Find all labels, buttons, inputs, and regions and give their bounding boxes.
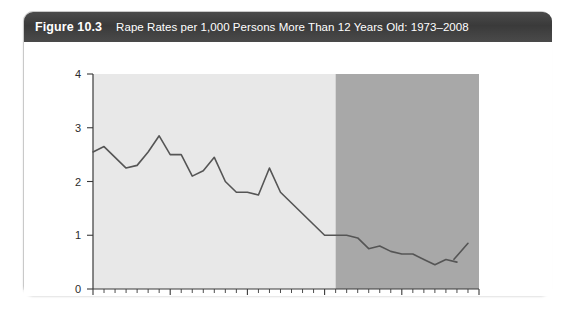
rape-rate-line-chart: 4 3 2 1 0 1973 1980 1987 1994 2001 2008: [24, 42, 552, 296]
y-tick-label-3: 3: [75, 122, 81, 134]
y-tick-label-2: 2: [75, 176, 81, 188]
y-axis-ticks: [87, 74, 93, 289]
figure-container: Figure 10.3 Rape Rates per 1,000 Persons…: [23, 11, 551, 296]
plot-background-right-band: [336, 74, 479, 289]
x-axis-ticks: [93, 289, 479, 295]
y-tick-label-1: 1: [75, 229, 81, 241]
y-tick-label-0: 0: [75, 283, 81, 295]
figure-header-bar: Figure 10.3 Rape Rates per 1,000 Persons…: [24, 12, 552, 42]
figure-title-label: Rape Rates per 1,000 Persons More Than 1…: [102, 21, 469, 33]
y-tick-label-4: 4: [75, 68, 81, 80]
figure-number-label: Figure 10.3: [24, 20, 102, 34]
plot-background-left-band: [93, 74, 336, 289]
chart-plot-region: 4 3 2 1 0 1973 1980 1987 1994 2001 2008: [24, 42, 552, 296]
